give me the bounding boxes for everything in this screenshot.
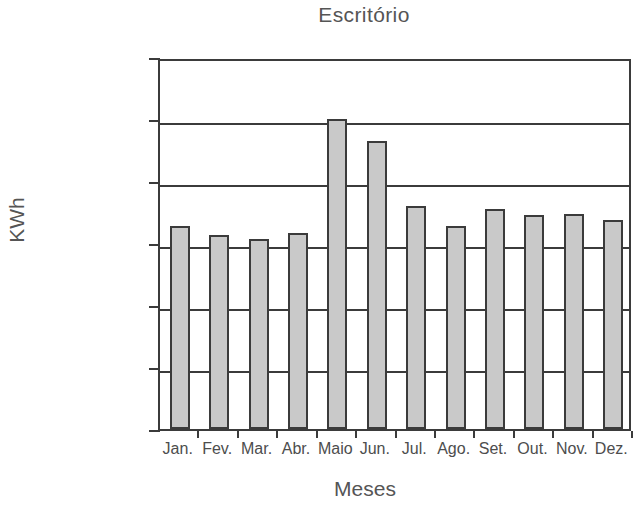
- x-tick-mark: [355, 431, 357, 438]
- bar: [485, 209, 505, 429]
- bar: [564, 214, 584, 429]
- x-axis-label: Meses: [0, 477, 644, 501]
- bar: [327, 119, 347, 429]
- x-tick-label: Mar.: [241, 440, 272, 458]
- x-tick-mark: [237, 431, 239, 438]
- bar: [603, 220, 623, 429]
- x-tick-mark: [592, 431, 594, 438]
- x-tick-label: Ago.: [437, 440, 470, 458]
- bar: [446, 226, 466, 429]
- chart-title: Escritório: [0, 3, 644, 27]
- y-tick-mark: [149, 120, 160, 122]
- x-tick-label: Jun.: [360, 440, 390, 458]
- y-tick-mark: [149, 244, 160, 246]
- y-tick-mark: [149, 306, 160, 308]
- y-tick-mark: [149, 182, 160, 184]
- x-tick-mark: [276, 431, 278, 438]
- bar: [406, 206, 426, 429]
- x-tick-label: Abr.: [282, 440, 310, 458]
- bar: [249, 239, 269, 429]
- x-tick-mark: [395, 431, 397, 438]
- gridline: [160, 185, 629, 187]
- x-tick-label: Jan.: [163, 440, 193, 458]
- plot-area: [158, 59, 631, 431]
- y-tick-mark: [149, 58, 160, 60]
- gridline: [160, 123, 629, 125]
- x-tick-mark: [434, 431, 436, 438]
- gridline: [160, 371, 629, 373]
- bar: [209, 235, 229, 429]
- x-tick-label: Nov.: [556, 440, 588, 458]
- y-tick-mark: [149, 430, 160, 432]
- y-axis-label: KWh: [5, 170, 29, 270]
- y-tick-mark: [149, 368, 160, 370]
- x-tick-mark: [316, 431, 318, 438]
- x-tick-label: Dez.: [595, 440, 628, 458]
- x-tick-label: Set.: [479, 440, 507, 458]
- x-tick-mark: [473, 431, 475, 438]
- x-tick-mark: [197, 431, 199, 438]
- x-tick-mark: [552, 431, 554, 438]
- x-tick-mark: [631, 431, 633, 438]
- gridline: [160, 309, 629, 311]
- bar: [367, 141, 387, 429]
- x-tick-label: Jul.: [402, 440, 427, 458]
- x-tick-label: Out.: [517, 440, 547, 458]
- x-tick-mark: [513, 431, 515, 438]
- bar: [288, 233, 308, 429]
- bar: [170, 226, 190, 429]
- bar: [524, 215, 544, 429]
- chart-title-text: Escritório: [318, 3, 410, 27]
- x-tick-label: Maio: [318, 440, 353, 458]
- x-tick-label: Fev.: [202, 440, 232, 458]
- gridline: [160, 247, 629, 249]
- x-axis-label-text: Meses: [334, 477, 396, 501]
- bar-chart: Escritório KWh Meses 0200400600800100012…: [0, 0, 644, 517]
